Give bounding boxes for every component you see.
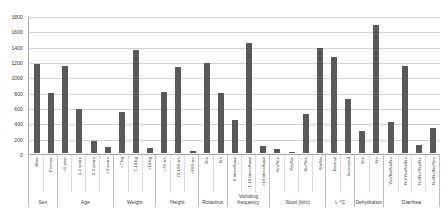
x-axis-tick-slot: No [369,156,383,192]
x-axis-tick-label: 0 times/hour [232,157,237,181]
bar [373,25,379,153]
bar [161,92,167,153]
bar [246,43,252,153]
bar-slot [157,17,171,153]
bar [91,141,97,153]
y-axis-tick-label: 1600 [11,29,23,36]
x-axis-tick-label: No [218,157,223,163]
x-axis-tick-slot: 0 times/hour [227,156,241,192]
bar-slot [299,17,313,153]
bar [133,50,139,153]
bar-slot [384,17,398,153]
x-axis-tick-label: <70 sm [161,157,166,172]
x-axis-tick-label: 1-10 times/hour [246,157,251,188]
bar [274,149,280,153]
bar-slot [426,17,440,153]
bar-slot [228,17,242,153]
x-axis-group-label: Diarrhea [384,199,439,205]
bar-slot [186,17,200,153]
y-axis-tick-label: 400 [14,121,23,128]
x-axis-tick-label: No/No [317,157,322,169]
bar [62,66,68,153]
x-axis-tick-label: 1-2 years [76,157,81,175]
bar [345,99,351,153]
x-axis-tick-slot: >10 times/hour [256,156,270,192]
x-axis-tick-slot: <7 kg [114,156,128,192]
bar-slot [129,17,143,153]
x-axis-tick-slot: Yes [355,156,369,192]
bar-slot [72,17,86,153]
bar [303,114,309,153]
y-axis-tick-label: 1200 [11,60,23,67]
x-axis-tick-slot: Yes [199,156,213,192]
bar [34,64,40,153]
x-axis-tick-slot: No/Yes/No/No [397,156,411,192]
x-axis-tick-label: Female [48,157,53,172]
x-axis-tick-slot: >3 years [100,156,114,192]
bar-slot [256,17,270,153]
x-axis-tick-slot: Yes/No [284,156,298,192]
x-axis-group-label: t, °C [326,199,354,205]
bar [232,120,238,153]
bar-slot [143,17,157,153]
bar-slot [200,17,214,153]
bar [388,122,394,153]
bar-slot [412,17,426,153]
x-axis-tick-slot: Male [29,156,43,192]
x-axis-tick-label: Yes/No [289,157,294,171]
x-axis-tick-slot: No/No [312,156,326,192]
bar [331,57,337,153]
x-axis-tick-label: Yes/No/No/No [388,157,393,185]
x-axis-group-label: Dehydration [355,199,383,205]
x-axis-group-label: Age [58,199,113,205]
y-axis-tick-label: 1400 [11,44,23,51]
x-axis-tick-slot: >14 kg [142,156,156,192]
bar [76,109,82,153]
bar-slot [270,17,284,153]
bar-slot [341,17,355,153]
bar [317,48,323,153]
x-axis-tick-slot: 2-3 years [86,156,100,192]
x-axis-tick-slot: Yes/No/No/No [383,156,397,192]
y-axis-tick-label: 1800 [11,14,23,21]
bar-slot [58,17,72,153]
x-axis-tick-label: >3 years [104,157,109,174]
bar [218,93,224,153]
bar [105,147,111,153]
y-axis-tick-label: 600 [14,106,23,113]
y-axis-tick-label: 800 [14,90,23,97]
bar [48,93,54,153]
bar-series [30,17,440,153]
x-axis-tick-slot: <70 sm [157,156,171,192]
x-axis-tick-label: <1 year [62,157,67,172]
bar-slot [87,17,101,153]
y-axis-tick-label: 0 [20,152,23,159]
bar-slot [214,17,228,153]
x-axis-tick-label: Yes [360,157,365,164]
y-axis-ticks: 020040060080010001200140016001800 [0,13,26,159]
y-axis-tick-label: 200 [14,136,23,143]
x-axis-tick-slot: 1-10 times/hour [242,156,256,192]
bar-slot [115,17,129,153]
x-axis-tick-label: Increased [345,157,350,176]
bar-slot [285,17,299,153]
bar-slot [242,17,256,153]
x-axis-tick-slot: <1 year [57,156,71,192]
x-axis-tick-label: Yes/Yes [275,157,280,173]
x-axis-tick-label: 2-3 years [90,157,95,175]
x-axis-tick-slot: 1-2 years [72,156,86,192]
bar [430,128,436,153]
bar-slot [355,17,369,153]
x-axis-group-label: Rotavirus [199,199,227,205]
bar-slot [30,17,44,153]
x-axis-tick-label: Yes [204,157,209,164]
bar [190,151,196,153]
x-axis-tick-slot: 7-14 kg [128,156,142,192]
x-axis-tick-slot: Female [43,156,57,192]
x-axis-tick-label: No [374,157,379,163]
x-axis-tick-label: Normal [331,157,336,171]
x-axis-tick-slot: Normal [327,156,341,192]
x-axis-group-label: Stool (b/m) [270,199,325,205]
x-axis-tick-label: Male [34,157,39,167]
x-axis-tick-slot: Increased [341,156,355,192]
